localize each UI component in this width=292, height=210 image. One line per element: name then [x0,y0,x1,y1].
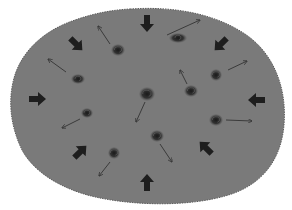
galaxy-icon [209,114,223,126]
galaxy-icon [184,85,198,97]
galaxy-icon [169,33,187,43]
galaxy-icon [139,87,155,101]
diagram-canvas [0,0,292,210]
galaxy-icon [111,44,125,56]
galaxy-icon [150,130,164,142]
universe-blob [11,8,285,203]
galaxy-icon [81,108,93,118]
galaxy-icon [108,147,120,159]
galaxy-icon [210,69,222,81]
galaxy-icon [71,74,85,84]
expanding-universe-diagram [0,0,292,210]
